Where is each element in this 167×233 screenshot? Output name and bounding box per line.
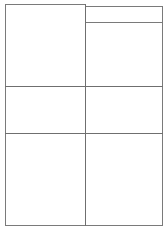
- screen: [0, 0, 167, 233]
- cell-middle-right: [86, 87, 162, 133]
- right-column-header-bar: [85, 6, 163, 23]
- cell-middle-left: [6, 87, 85, 133]
- cell-top-right: [86, 23, 162, 86]
- cell-top-left: [6, 5, 85, 86]
- cell-bottom-left: [6, 134, 85, 225]
- cell-bottom-right: [86, 134, 162, 225]
